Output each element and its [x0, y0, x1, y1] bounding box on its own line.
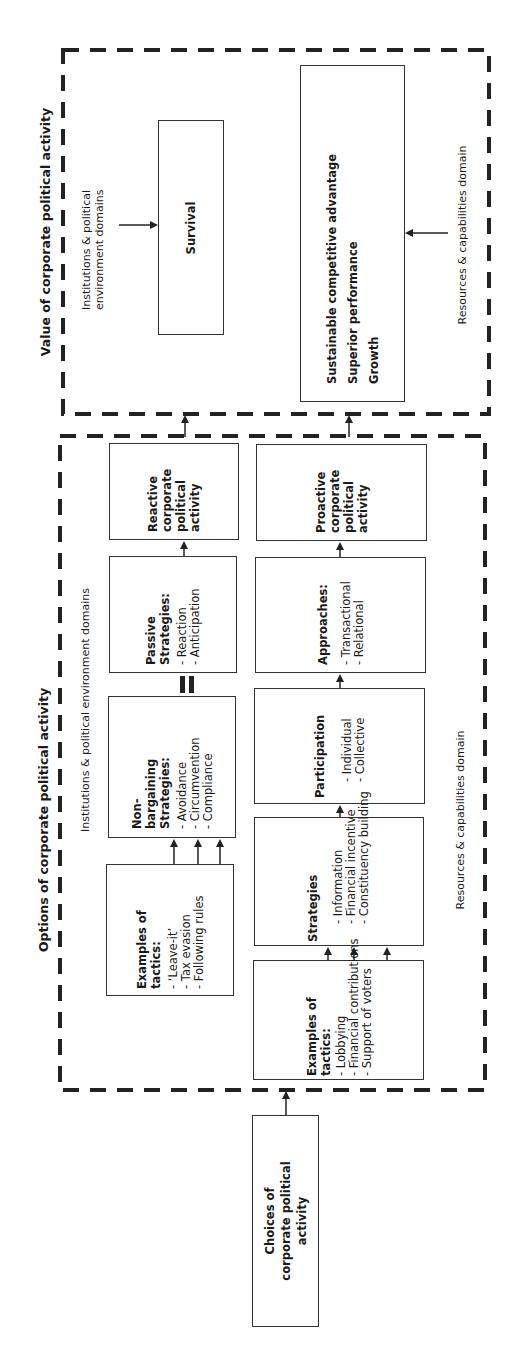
choices-box: Choices of corporate political activity — [252, 1115, 319, 1327]
non-bargaining-title: Non-bargaining Strategies: — [130, 729, 172, 829]
outcome-item: Growth — [363, 84, 384, 384]
options-section-title-wrap: Options of corporate political activity — [28, 560, 58, 1080]
options-resources-label: Resources & capabilities domain — [454, 731, 467, 910]
list-item: - Constituency building — [358, 834, 371, 942]
value-institutions-label-wrap: Institutions & political environment dom… — [76, 140, 110, 320]
value-resources-label-wrap: Resources & capabilities domain — [450, 110, 474, 360]
options-section-title: Options of corporate political activity — [36, 688, 51, 952]
options-resources-label-wrap: Resources & capabilities domain — [448, 670, 472, 970]
options-institutions-label: Institutions & political environment dom… — [79, 588, 92, 832]
participation-title: Participation — [313, 694, 326, 798]
strategies-box: Strategies - Information - Financial inc… — [254, 817, 424, 946]
tactics-bottom-title: Examples of tactics: — [304, 996, 332, 1076]
passive-strategies-box: Passive Strategies: - Reaction - Anticip… — [109, 556, 237, 673]
tactics-top-title: Examples of tactics: — [135, 909, 163, 989]
list-item: - Individual — [340, 694, 353, 798]
value-institutions-label: Institutions & political environment dom… — [80, 150, 106, 310]
value-section-title-wrap: Value of corporate political activity — [30, 50, 60, 414]
tactics-top-content: Examples of tactics: - ‘Leave-it’ - Tax … — [135, 871, 206, 989]
reactive-label: Reactive corporate political activity — [146, 452, 202, 532]
strategies-content: Strategies - Information - Financial inc… — [307, 822, 371, 942]
non-bargaining-content: Non-bargaining Strategies: - Avoidance -… — [130, 705, 215, 829]
outcome-item: Superior performance — [342, 84, 363, 384]
equals-sign-left — [180, 676, 185, 693]
participation-box: Participation - Individual - Collective — [254, 688, 425, 804]
choices-label: Choices of corporate political activity — [262, 1156, 310, 1286]
list-item: - Following rules — [193, 871, 206, 989]
outcomes-box: Sustainable competitive advantage Superi… — [300, 65, 405, 402]
list-item: - Lobbying — [334, 964, 347, 1076]
list-item: - Financial contributions — [347, 986, 360, 1076]
list-item: - Relational — [352, 565, 365, 665]
passive-strategies-title: Passive Strategies: — [144, 585, 172, 665]
approaches-title: Approaches: — [316, 565, 329, 665]
tactics-bottom-content: Examples of tactics: - Lobbying - Financ… — [304, 964, 373, 1076]
list-item: - Compliance — [202, 705, 215, 829]
list-item: - Anticipation — [189, 565, 202, 665]
strategies-title: Strategies — [307, 822, 320, 942]
value-section-title: Value of corporate political activity — [38, 108, 53, 356]
list-item: - Support of voters — [360, 996, 373, 1076]
survival-label: Survival — [185, 201, 198, 254]
equals-sign-right — [189, 676, 194, 693]
value-section-frame — [63, 50, 489, 414]
list-item: - Transactional — [339, 565, 352, 665]
outcome-item: Sustainable competitive advantage — [321, 84, 342, 384]
tactics-top-box: Examples of tactics: - ‘Leave-it’ - Tax … — [106, 864, 234, 996]
tactics-bottom-box: Examples of tactics: - Lobbying - Financ… — [253, 960, 424, 1080]
approaches-box: Approaches: - Transactional - Relational — [255, 557, 426, 673]
proactive-label: Proactive corporate political activity — [314, 453, 370, 533]
options-institutions-label-wrap: Institutions & political environment dom… — [73, 560, 97, 860]
participation-content: Participation - Individual - Collective — [313, 694, 366, 798]
reactive-box: Reactive corporate political activity — [109, 443, 239, 540]
approaches-content: Approaches: - Transactional - Relational — [316, 565, 365, 665]
list-item: - Collective — [353, 694, 366, 798]
value-resources-label: Resources & capabilities domain — [456, 146, 469, 325]
outcomes-list: Sustainable competitive advantage Superi… — [321, 84, 384, 384]
non-bargaining-strategies-box: Non-bargaining Strategies: - Avoidance -… — [108, 696, 236, 838]
proactive-box: Proactive corporate political activity — [256, 444, 427, 541]
passive-strategies-content: Passive Strategies: - Reaction - Anticip… — [144, 565, 202, 665]
survival-box: Survival — [158, 120, 224, 335]
